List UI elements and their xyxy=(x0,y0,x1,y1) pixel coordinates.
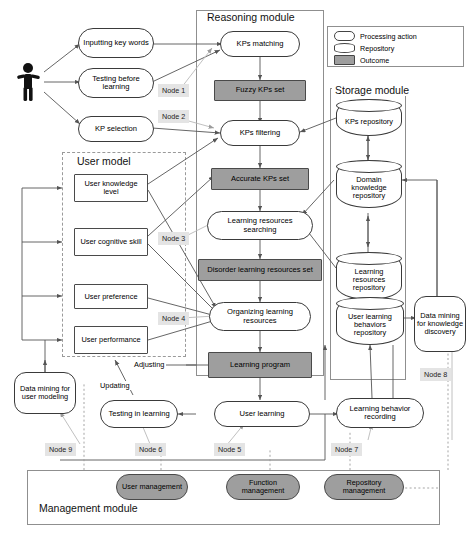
process-label: KPs filtering xyxy=(221,129,299,137)
process-learning-behavior-recording[interactable]: Learning behavior recording xyxy=(336,398,424,428)
cylinder-cap xyxy=(336,252,402,265)
outcome-learning-program[interactable]: Learning program xyxy=(208,352,312,378)
edge-label-updating: Updating xyxy=(98,381,132,390)
attribute-label: User performance xyxy=(75,336,147,344)
process-kps-filtering[interactable]: KPs filtering xyxy=(220,120,300,146)
repository-kps-repository[interactable]: KPs repository xyxy=(336,99,402,136)
legend-row-processing-action: Processing action xyxy=(334,31,417,41)
module-title-management: Management module xyxy=(36,502,141,514)
legend-label: Repository xyxy=(360,44,394,53)
process-label: Data mining for user modeling xyxy=(15,385,75,401)
legend-outcome-icon xyxy=(334,55,355,65)
module-title-user-model: User model xyxy=(74,155,134,167)
process-kps-matching[interactable]: KPs matching xyxy=(220,31,300,57)
outcome-label: Learning program xyxy=(209,361,311,369)
process-testing-before-learning[interactable]: Testing before learning xyxy=(78,68,154,98)
repository-learning-resources-repository[interactable]: Learning resources repository xyxy=(336,252,402,300)
repository-domain-knowledge-repository[interactable]: Domain knowledge repository xyxy=(336,160,402,208)
outcome-accurate-kps-set[interactable]: Accurate KPs set xyxy=(211,168,309,190)
process-label: KPs matching xyxy=(221,40,299,48)
process-data-mining-for-user-modeling[interactable]: Data mining for user modeling xyxy=(14,372,76,414)
legend-repository-icon xyxy=(334,43,355,53)
process-label: Inputting key words xyxy=(79,39,153,47)
management-user-management[interactable]: User management xyxy=(116,474,188,500)
attribute-label: User cognitive skill xyxy=(75,238,147,246)
legend-row-repository: Repository xyxy=(334,43,394,53)
repository-label: Domain knowledge repository xyxy=(337,176,401,200)
person-icon xyxy=(14,62,44,102)
repository-user-learning-behaviors-repository[interactable]: User learning behaviors repository xyxy=(336,297,404,345)
node-tag-node-3: Node 3 xyxy=(158,232,189,245)
module-title-reasoning: Reasoning module xyxy=(204,11,298,23)
attribute-label: User preference xyxy=(75,293,147,301)
process-label: KP selection xyxy=(79,125,153,133)
process-label: Learning resources searching xyxy=(208,217,312,233)
repository-label: KPs repository xyxy=(337,118,401,126)
process-label: Testing before learning xyxy=(79,75,153,91)
process-label: Testing in learning xyxy=(101,410,177,418)
node-tag-node-4: Node 4 xyxy=(158,312,189,325)
cylinder-cap xyxy=(336,99,402,112)
outcome-disorder-learning-resources-set[interactable]: Disorder learning resources set xyxy=(198,259,322,281)
outcome-fuzzy-kps-set[interactable]: Fuzzy KPs set xyxy=(214,80,306,101)
diagram-canvas: Reasoning module Storage module User mod… xyxy=(0,0,466,533)
management-label: Repository management xyxy=(325,479,403,495)
node-tag-node-7: Node 7 xyxy=(331,443,362,456)
legend-row-outcome: Outcome xyxy=(334,55,389,65)
management-label: Function management xyxy=(227,479,299,495)
node-tag-node-8: Node 8 xyxy=(420,368,451,381)
repository-label: User learning behaviors repository xyxy=(337,313,403,337)
process-kp-selection[interactable]: KP selection xyxy=(78,116,154,142)
process-data-mining-for-knowledge-discovery[interactable]: Data mining for knowledge discovery xyxy=(414,296,466,352)
outcome-label: Accurate KPs set xyxy=(212,175,308,183)
process-inputting-key-words[interactable]: Inputting key words xyxy=(78,28,154,58)
process-learning-resources-searching[interactable]: Learning resources searching xyxy=(207,211,313,240)
cylinder-cap xyxy=(336,297,404,310)
attribute-label: User knowledge level xyxy=(75,180,147,196)
process-label: Learning behavior recording xyxy=(337,405,423,421)
edge-label-adjusting: Adjusting xyxy=(132,360,166,369)
legend-processing-action-icon xyxy=(334,31,355,41)
module-title-storage: Storage module xyxy=(332,84,412,96)
process-user-learning[interactable]: User learning xyxy=(214,401,310,427)
process-label: User learning xyxy=(215,410,309,418)
process-label: Organizing learning resources xyxy=(210,308,310,324)
legend-box: Processing action Repository Outcome xyxy=(327,26,464,67)
process-testing-in-learning[interactable]: Testing in learning xyxy=(100,400,178,428)
management-label: User management xyxy=(117,483,187,491)
management-repository-management[interactable]: Repository management xyxy=(324,474,404,500)
node-tag-node-2: Node 2 xyxy=(158,110,189,123)
node-tag-node-1: Node 1 xyxy=(158,84,189,97)
legend-label: Processing action xyxy=(360,32,417,41)
attribute-user-knowledge-level[interactable]: User knowledge level xyxy=(74,174,148,202)
attribute-user-cognitive-skill[interactable]: User cognitive skill xyxy=(74,228,148,256)
legend-label: Outcome xyxy=(360,56,389,65)
node-tag-node-6: Node 6 xyxy=(135,443,166,456)
outcome-label: Disorder learning resources set xyxy=(199,266,321,274)
repository-label: Learning resources repository xyxy=(337,268,401,292)
outcome-label: Fuzzy KPs set xyxy=(215,86,305,94)
node-tag-node-5: Node 5 xyxy=(214,443,245,456)
attribute-user-preference[interactable]: User preference xyxy=(74,284,148,309)
cylinder-cap xyxy=(336,160,402,173)
management-function-management[interactable]: Function management xyxy=(226,474,300,500)
node-tag-node-9: Node 9 xyxy=(45,443,76,456)
process-label: Data mining for knowledge discovery xyxy=(415,312,465,336)
attribute-user-performance[interactable]: User performance xyxy=(74,326,148,354)
process-organizing-learning-resources[interactable]: Organizing learning resources xyxy=(209,302,311,331)
